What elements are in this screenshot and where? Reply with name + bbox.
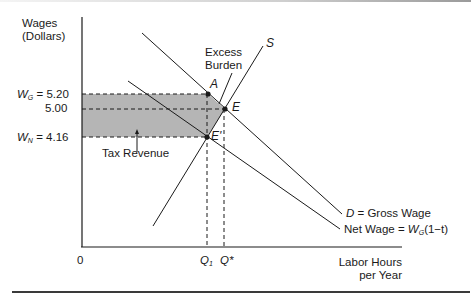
net-wage-prefix: Net Wage =	[344, 223, 408, 235]
qstar-tick-label: Q*	[220, 254, 233, 267]
shaded-tax-region	[82, 94, 225, 137]
point-e-prime-marker	[204, 134, 209, 139]
supply-label: S	[266, 37, 274, 50]
net-wage-symbol: W	[408, 223, 419, 235]
y-axis-label: Wages (Dollars)	[22, 17, 65, 43]
demand-text: = Gross Wage	[358, 207, 431, 219]
x-axis-label-line1: Labor Hours	[338, 256, 402, 269]
wg-subscript: G	[28, 94, 33, 101]
q1-tick-label: Q1	[200, 254, 213, 270]
y-axis-label-line1: Wages	[22, 17, 65, 30]
bottom-rule	[12, 291, 470, 293]
net-wage-label: Net Wage = WG(1−t)	[344, 223, 448, 239]
demand-label: D = Gross Wage	[346, 207, 431, 220]
wg-value: = 5.20	[37, 88, 69, 100]
excess-burden-line1: Excess	[205, 46, 242, 59]
point-e-marker	[222, 106, 227, 111]
wn-symbol: W	[17, 131, 28, 143]
point-a-label: A	[210, 78, 218, 91]
wn-value: = 4.16	[36, 131, 68, 143]
wn-tick-label: WN = 4.16	[17, 131, 68, 147]
equilibrium-tick-label: 5.00	[45, 102, 67, 115]
excess-burden-line2: Burden	[205, 59, 242, 72]
wn-subscript: N	[28, 137, 33, 144]
tax-revenue-label: Tax Revenue	[102, 147, 169, 160]
point-e-prime-label: E'	[211, 130, 221, 143]
q1-symbol: Q	[200, 254, 209, 266]
y-axis-label-line2: (Dollars)	[22, 30, 65, 43]
excess-burden-label: Excess Burden	[205, 46, 242, 72]
origin-label: 0	[77, 254, 83, 267]
x-axis-label: Labor Hours per Year	[338, 256, 402, 282]
point-e-label: E	[232, 101, 240, 114]
x-axis-label-line2: per Year	[338, 269, 402, 282]
net-wage-suffix: (1−t)	[424, 223, 448, 235]
q1-subscript: 1	[209, 260, 213, 267]
point-a-marker	[205, 91, 210, 96]
demand-symbol: D	[346, 207, 354, 219]
tax-incidence-diagram	[0, 0, 471, 297]
wg-symbol: W	[17, 88, 28, 100]
